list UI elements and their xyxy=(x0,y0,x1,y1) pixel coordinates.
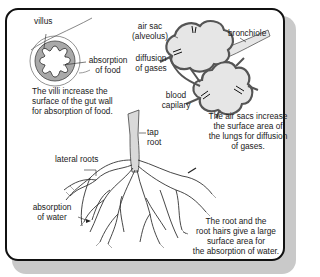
absorption-water-arrowhead xyxy=(86,219,91,223)
caption-line: surface of the gut wall xyxy=(32,96,113,106)
label-air-sac-line2: (alveolus) xyxy=(131,32,169,42)
label-diffusion-line2: of gases xyxy=(133,64,169,74)
label-villus: villus xyxy=(34,17,52,27)
label-tap-line2: root xyxy=(147,138,161,148)
caption-air-sacs: The air sacs increase the surface area o… xyxy=(198,111,298,151)
label-blood-line2: capilary xyxy=(158,101,194,111)
caption-line: the lungs for diffusion xyxy=(198,131,298,141)
label-absorption-of-food: absorption of food xyxy=(86,56,130,75)
root-hair-arrow xyxy=(188,168,196,173)
label-absorption-line2: of food xyxy=(86,66,130,76)
absorption-water-pointer xyxy=(78,217,86,220)
label-blood-capillary: blood capilary xyxy=(158,91,194,110)
caption-line: The air sacs increase xyxy=(198,111,298,121)
label-lateral-roots: lateral roots xyxy=(55,155,98,165)
caption-line: root hairs give a large xyxy=(183,226,289,236)
gut-lumen-villi xyxy=(40,46,70,77)
caption-line: the absorption of water. xyxy=(183,246,289,256)
villus-diagram xyxy=(30,18,92,86)
label-tap-root: tap root xyxy=(147,128,161,147)
label-absorption-of-water: absorption of water xyxy=(30,203,74,222)
caption-villi: The villi increase the surface of the gu… xyxy=(32,86,113,116)
label-absorption-water-line2: of water xyxy=(30,213,74,223)
caption-line: of gases. xyxy=(198,141,298,151)
caption-line: The root and the xyxy=(183,216,289,226)
caption-line: surface area for xyxy=(183,236,289,246)
caption-line: the surface area of xyxy=(198,121,298,131)
label-air-sac: air sac (alveolus) xyxy=(131,22,169,41)
label-diffusion-of-gases: diffusion of gases xyxy=(133,54,169,73)
lateral-roots-pointer xyxy=(84,170,96,176)
caption-root-hairs: The root and the root hairs give a large… xyxy=(183,216,289,256)
label-bronchiole: bronchiole xyxy=(228,29,266,39)
caption-line: for absorption of food. xyxy=(32,106,113,116)
tap-root xyxy=(128,110,139,172)
caption-line: The villi increase the xyxy=(32,86,113,96)
